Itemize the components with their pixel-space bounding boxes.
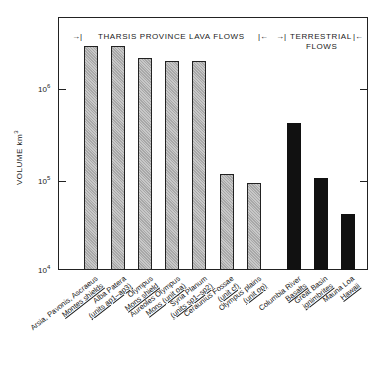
bar-arsia-pavonis-ascraeus — [84, 46, 98, 270]
group-label-terrestrial-2: FLOWS — [306, 42, 337, 51]
group-label-tharsis: THARSIS PROVINCE LAVA FLOWS — [98, 32, 245, 41]
bar-ceraunius-fossae — [220, 174, 234, 270]
tharsis-bracket-right: |← — [258, 32, 268, 41]
bar-columbia-river-basalts — [287, 123, 301, 270]
y-tick-1e6 — [58, 89, 66, 90]
bar-olympus-plains — [247, 183, 261, 270]
y-tick-right-1e5 — [360, 181, 368, 182]
y-axis-title: VOLUME km3 — [13, 130, 24, 185]
y-tick-right-1e6 — [360, 89, 368, 90]
y-tick-label-1e4: 104 — [38, 264, 50, 275]
terrestrial-bracket-right: |← — [353, 32, 363, 41]
bar-syria-planum — [192, 61, 206, 270]
bar-aureoles-olympus-mons — [165, 61, 179, 270]
y-tick-label-1e5: 105 — [38, 175, 50, 186]
terrestrial-bracket-left: →| — [276, 32, 286, 41]
y-tick-1e5 — [58, 181, 66, 182]
y-tick-label-1e6: 106 — [38, 83, 50, 94]
tharsis-bracket-left: →| — [72, 32, 82, 41]
bar-olympus-mons-shield — [138, 58, 152, 270]
bar-great-basin-ignimbrites — [314, 178, 328, 270]
group-label-terrestrial: TERRESTRIAL — [290, 32, 352, 41]
bar-alba-patera — [111, 46, 125, 270]
bar-mauna-loa — [341, 214, 355, 270]
